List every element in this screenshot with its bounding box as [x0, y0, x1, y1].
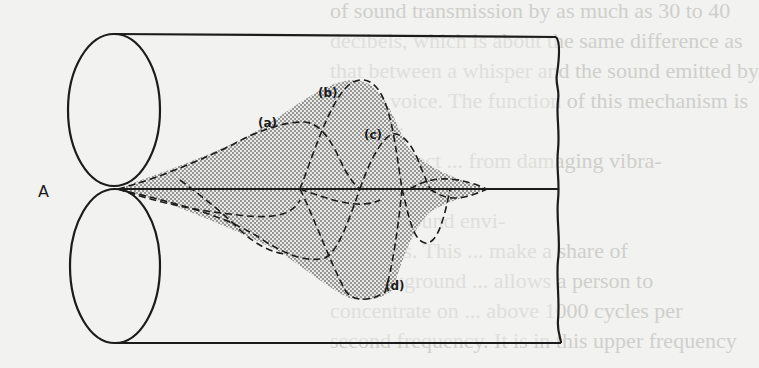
label-a-origin: A	[38, 182, 49, 201]
label-curve-a: (a)	[258, 116, 277, 130]
label-curve-d: (d)	[385, 279, 405, 293]
label-curve-b: (b)	[318, 86, 338, 100]
label-curve-c: (c)	[364, 128, 382, 142]
